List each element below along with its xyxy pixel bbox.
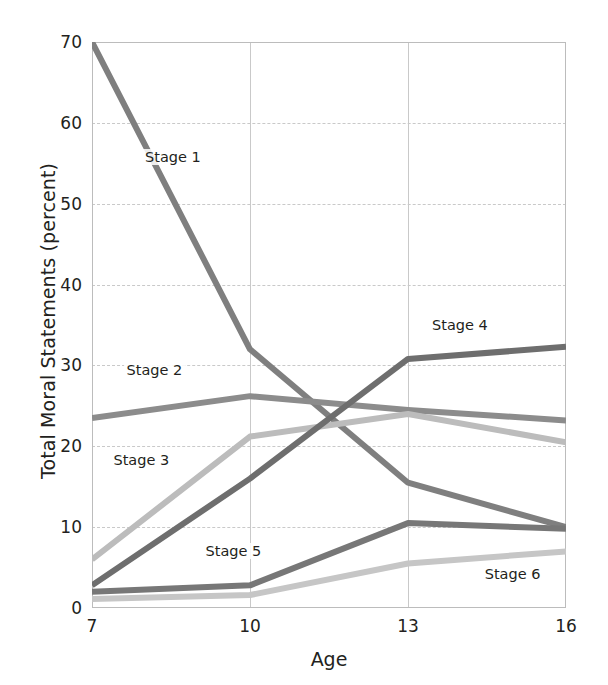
series-label-stage-1: Stage 1: [142, 149, 204, 165]
line-chart: Total Moral Statements (percent) Age 010…: [0, 0, 608, 685]
x-axis-title: Age: [92, 648, 566, 670]
series-label-stage-2: Stage 2: [124, 362, 186, 378]
plot-area: Stage 1Stage 2Stage 3Stage 4Stage 5Stage…: [92, 42, 566, 608]
y-axis-tick-label: 60: [36, 113, 82, 133]
y-axis-tick-label: 0: [36, 598, 82, 618]
x-axis-tick-label: 16: [536, 616, 596, 636]
series-lines: [92, 42, 566, 608]
y-axis-tick-label: 20: [36, 436, 82, 456]
x-axis-tick-label: 13: [378, 616, 438, 636]
y-axis-tick-label: 30: [36, 355, 82, 375]
y-axis-tick-label: 40: [36, 275, 82, 295]
series-label-stage-5: Stage 5: [203, 543, 265, 559]
series-label-stage-3: Stage 3: [110, 452, 172, 468]
y-axis-tick-label: 10: [36, 517, 82, 537]
x-axis-tick-label: 7: [62, 616, 122, 636]
y-axis-tick-label: 50: [36, 194, 82, 214]
series-label-stage-6: Stage 6: [482, 566, 544, 582]
x-axis-tick-label: 10: [220, 616, 280, 636]
y-axis-tick-label: 70: [36, 32, 82, 52]
series-label-stage-4: Stage 4: [429, 317, 491, 333]
